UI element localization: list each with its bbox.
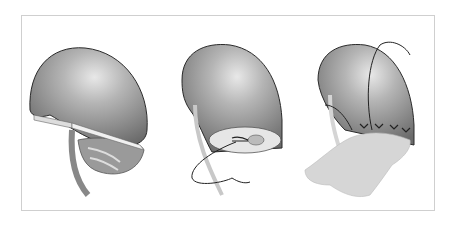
panel-2-kidney [182,44,282,195]
bolster-icon [305,133,410,197]
illustration [0,0,455,228]
